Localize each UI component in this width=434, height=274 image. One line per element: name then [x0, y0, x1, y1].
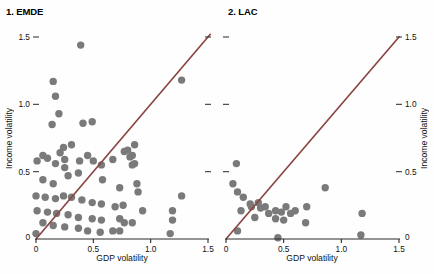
data-point — [48, 121, 55, 128]
data-point — [167, 230, 174, 237]
data-point — [131, 141, 138, 148]
x-tick-label: 0 — [34, 244, 39, 254]
data-point — [251, 214, 258, 221]
data-point — [240, 194, 247, 201]
data-point — [56, 149, 63, 156]
data-point — [119, 202, 126, 209]
volatility-scatter-figure: 1. EMDE 2. LAC 00.51.01.500.51.01.5 00.5… — [0, 0, 434, 274]
data-point — [111, 203, 118, 210]
data-point — [52, 160, 59, 167]
data-point — [64, 211, 71, 218]
data-point — [274, 234, 281, 241]
data-point — [121, 148, 128, 155]
data-point — [76, 157, 83, 164]
y-tick-label: 0.5 — [18, 167, 30, 177]
y-tick-label: 0 — [25, 232, 30, 242]
data-point — [234, 188, 241, 195]
data-point — [99, 176, 106, 183]
x-tick-label: 1.5 — [393, 244, 405, 254]
data-point — [89, 118, 96, 125]
data-point — [178, 76, 185, 83]
data-point — [358, 210, 365, 217]
panel-title-lac: 2. LAC — [228, 6, 258, 17]
scatter-canvas: 00.51.01.500.51.01.5 — [36, 37, 208, 239]
data-point — [60, 192, 67, 199]
data-point — [139, 207, 146, 214]
forty-five-degree-line — [226, 37, 399, 239]
data-point — [116, 184, 123, 191]
data-point — [33, 157, 40, 164]
data-point — [77, 41, 84, 48]
data-point — [75, 169, 82, 176]
lac-scatter-plot: 00.51.01.500.51.01.5 — [226, 37, 399, 239]
data-point — [169, 216, 176, 223]
data-point — [90, 157, 97, 164]
data-point — [109, 227, 116, 234]
scatter-canvas: 00.51.01.500.51.01.5 — [226, 37, 399, 239]
data-point — [302, 219, 309, 226]
data-point — [84, 227, 91, 234]
data-point — [233, 160, 240, 167]
data-point — [61, 156, 68, 163]
data-point — [75, 214, 82, 221]
data-point — [229, 180, 236, 187]
data-point — [134, 188, 141, 195]
emde-y-axis-label: Income volatility — [4, 37, 14, 239]
data-point — [280, 216, 287, 223]
emde-x-axis-label: GDP volatility — [62, 253, 182, 263]
data-point — [178, 192, 185, 199]
lac-x-axis-label: GDP volatility — [252, 253, 372, 263]
panel-title-emde: 1. EMDE — [6, 6, 43, 17]
data-point — [97, 229, 104, 236]
data-point — [357, 231, 364, 238]
data-point — [64, 172, 71, 179]
lac-y-axis-label: Income volatility — [419, 37, 429, 239]
data-point — [129, 161, 136, 168]
data-point — [89, 199, 96, 206]
x-tick-label: 1.5 — [202, 244, 214, 254]
data-point — [32, 192, 39, 199]
data-point — [42, 194, 49, 201]
data-point — [169, 207, 176, 214]
data-point — [282, 203, 289, 210]
data-point — [133, 180, 140, 187]
data-point — [50, 180, 57, 187]
data-point — [89, 215, 96, 222]
data-point — [272, 215, 279, 222]
data-point — [75, 225, 82, 232]
data-point — [61, 223, 68, 230]
y-tick-label: 0.5 — [405, 167, 417, 177]
emde-scatter-plot: 00.51.01.500.51.01.5 — [36, 37, 208, 239]
data-point — [98, 200, 105, 207]
data-point — [39, 176, 46, 183]
data-point — [265, 210, 272, 217]
data-point — [129, 219, 136, 226]
data-point — [109, 156, 116, 163]
y-tick-label: 1.5 — [405, 32, 417, 42]
data-point — [68, 141, 75, 148]
x-tick-label: 0 — [224, 244, 229, 254]
y-tick-label: 1.0 — [405, 99, 417, 109]
data-point — [262, 203, 269, 210]
data-point — [98, 216, 105, 223]
y-tick-label: 0 — [405, 232, 410, 242]
data-point — [292, 207, 299, 214]
data-point — [39, 219, 46, 226]
data-point — [237, 207, 244, 214]
data-point — [121, 219, 128, 226]
data-point — [44, 208, 51, 215]
data-point — [50, 78, 57, 85]
data-point — [44, 155, 51, 162]
data-point — [116, 227, 123, 234]
y-tick-label: 1.0 — [18, 99, 30, 109]
data-point — [52, 93, 59, 100]
data-point — [61, 164, 68, 171]
data-point — [52, 195, 59, 202]
data-point — [322, 184, 329, 191]
y-tick-label: 1.5 — [18, 32, 30, 42]
data-point — [33, 207, 40, 214]
data-point — [55, 110, 62, 117]
data-point — [303, 203, 310, 210]
data-point — [79, 120, 86, 127]
data-point — [78, 196, 85, 203]
